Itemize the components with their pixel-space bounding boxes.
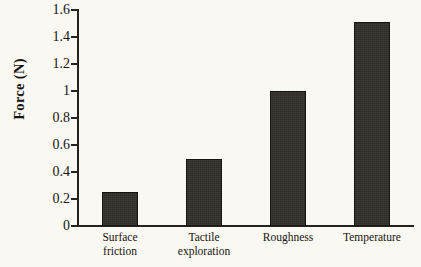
y-axis-tick-label: 0.2 (10, 192, 70, 206)
x-axis-category-label-line: Surface (78, 230, 162, 244)
x-axis-category-label-line: Roughness (246, 230, 330, 244)
bar-chart-figure: Force (N) 00.20.40.60.811.21.41.6 Surfac… (0, 0, 421, 267)
y-axis-tick-label: 1.2 (10, 57, 70, 71)
y-axis-tick-label: 1 (10, 84, 70, 98)
x-axis-category-label: Tactileexploration (162, 230, 246, 258)
y-axis-tick-label: 1.6 (10, 3, 70, 17)
bar (102, 192, 138, 226)
y-axis-tick-label: 0 (10, 219, 70, 233)
y-axis-tick-label: 1.4 (10, 30, 70, 44)
x-axis-category-label-line: Temperature (330, 230, 414, 244)
plot-area (78, 10, 414, 226)
x-axis-category-label-line: friction (78, 244, 162, 258)
bar (270, 91, 306, 226)
y-axis-tick-label: 0.6 (10, 138, 70, 152)
x-axis-category-label-line: Tactile (162, 230, 246, 244)
y-axis-tick-label: 0.4 (10, 165, 70, 179)
y-axis-tick-labels: 00.20.40.60.811.21.41.6 (8, 0, 70, 267)
x-axis-category-labels: SurfacefrictionTactileexplorationRoughne… (78, 230, 414, 267)
x-axis-category-label: Temperature (330, 230, 414, 244)
bar (186, 159, 222, 227)
bar (354, 22, 390, 226)
x-axis-category-label: Surfacefriction (78, 230, 162, 258)
x-axis-category-label-line: exploration (162, 244, 246, 258)
x-axis-category-label: Roughness (246, 230, 330, 244)
y-axis-tick-label: 0.8 (10, 111, 70, 125)
